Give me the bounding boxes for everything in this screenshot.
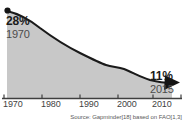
x-tick-label-1990: 1990 <box>79 100 99 109</box>
start-point-marker <box>4 7 10 13</box>
source-citation: Source: Gapminder[18] based on FAO[1,3] <box>70 114 182 120</box>
x-tick-label-1970: 1970 <box>3 100 23 109</box>
x-tick-label-1980: 1980 <box>41 100 61 109</box>
x-tick-label-2010: 2010 <box>152 100 172 109</box>
area-fill <box>7 11 172 98</box>
undernourishment-area-chart: 28% 1970 11% 2015 1970 1980 1990 2000 20… <box>0 0 184 126</box>
x-tick-label-2000: 2000 <box>117 100 137 109</box>
